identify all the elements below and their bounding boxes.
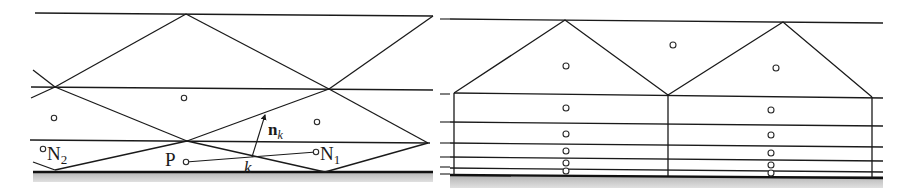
edge [325, 143, 428, 172]
node-n2 [40, 146, 45, 151]
node-p [183, 159, 188, 164]
cell-center-node [51, 115, 56, 120]
prism-layer-line [450, 157, 883, 161]
right-panel-prismatic-mesh [450, 19, 883, 188]
prism-layer-line [450, 143, 883, 147]
edge [33, 70, 55, 87]
cell-center-node [563, 131, 569, 137]
cell-center-node [563, 160, 569, 166]
left-panel-triangular-mesh: N2 P N1 nk k [30, 13, 450, 182]
edge [55, 14, 186, 87]
cell-center-node [670, 42, 676, 48]
top-boundary-line [35, 13, 433, 16]
roof-edges [454, 20, 872, 97]
cell-center-node [768, 150, 774, 156]
layer-line-3 [30, 140, 430, 143]
label-normal-vector: nk [268, 120, 283, 142]
cell-center-node [563, 168, 569, 174]
edge [55, 87, 187, 141]
edge [329, 16, 433, 89]
edge [31, 87, 55, 98]
cell-center-node [563, 105, 569, 111]
label-n2: N2 [47, 143, 67, 167]
cell-center-node [768, 162, 774, 168]
prism-layer-line [450, 168, 883, 172]
layer-ticks [440, 19, 450, 174]
cell-center-node [768, 170, 774, 176]
label-face-k: k [244, 158, 252, 177]
label-p: P [165, 149, 176, 170]
cell-center-node [563, 63, 569, 69]
ground-band [33, 172, 433, 182]
edge [187, 89, 329, 141]
cell-center-node [314, 119, 319, 124]
prism-layer-line [450, 122, 883, 126]
node-n1 [313, 149, 318, 154]
mesh-diagram: N2 P N1 nk k [0, 0, 912, 190]
cell-center-node [768, 132, 774, 138]
normal-vector-arrow [252, 115, 265, 157]
cell-center-node [773, 65, 779, 71]
top-boundary-line [450, 19, 883, 23]
cell-center-node [768, 107, 774, 113]
edge [329, 89, 428, 143]
label-n1: N1 [320, 143, 340, 167]
cell-center-node [181, 95, 186, 100]
layer-line-2 [31, 87, 433, 90]
edge [186, 14, 329, 89]
cell-center-node [563, 148, 569, 154]
